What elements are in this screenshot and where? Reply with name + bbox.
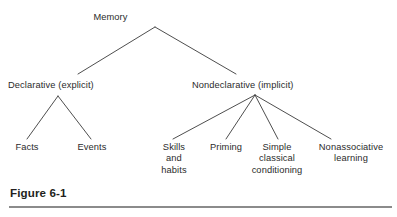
- node-declarative-explicit: Declarative (explicit): [8, 80, 128, 91]
- leaf-simple-classical-conditioning: Simple classical conditioning: [240, 142, 314, 176]
- connector-nondeclarative-to-skills: [173, 95, 255, 139]
- connector-root-to-declarative: [78, 27, 155, 74]
- connector-nondeclarative-to-priming: [226, 95, 255, 139]
- connector-root-to-nondeclarative: [155, 27, 236, 74]
- connector-declarative-to-facts: [27, 96, 58, 139]
- leaf-events: Events: [55, 142, 129, 153]
- tree-connector-lines: [0, 0, 397, 217]
- caption-divider: [9, 206, 392, 208]
- memory-taxonomy-figure: Memory Declarative (explicit) Nondeclara…: [0, 0, 397, 217]
- leaf-nonassociative-learning: Nonassociative learning: [308, 142, 394, 165]
- connector-nondeclarative-to-simple-classical: [255, 95, 278, 139]
- connector-declarative-to-events: [58, 96, 91, 139]
- node-memory: Memory: [0, 12, 309, 23]
- connector-nondeclarative-to-nonassociative: [255, 95, 331, 139]
- figure-caption: Figure 6-1: [10, 186, 67, 199]
- node-nondeclarative-implicit: Nondeclarative (implicit): [192, 80, 332, 91]
